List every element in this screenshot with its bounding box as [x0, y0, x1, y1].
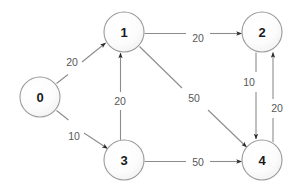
edge-label-1-to-4: 50: [188, 92, 200, 104]
edge-1-to-2: 20: [145, 32, 242, 44]
node-2[interactable]: 2: [242, 12, 282, 52]
edge-2-to-4: 10: [243, 53, 256, 140]
node-1-label: 1: [120, 25, 127, 40]
edge-1-to-4-segment-a: [140, 47, 183, 89]
edge-1-to-4: 50: [140, 47, 247, 148]
node-4[interactable]: 4: [242, 140, 282, 180]
edge-4-to-2: 20: [271, 53, 283, 143]
edge-label-3-to-1: 20: [114, 95, 126, 107]
edge-1-to-4-segment-b: [208, 110, 247, 147]
edge-label-0-to-1: 20: [66, 56, 78, 68]
edge-label-1-to-2: 20: [192, 32, 204, 44]
graph-canvas: 20 10 20 20 50 50: [0, 0, 300, 192]
node-3[interactable]: 3: [104, 140, 144, 180]
node-0[interactable]: 0: [20, 77, 60, 117]
node-4-label: 4: [258, 153, 266, 168]
node-1[interactable]: 1: [104, 12, 144, 52]
edge-0-to-3-segment-b: [84, 133, 108, 149]
edge-label-0-to-3: 10: [68, 130, 80, 142]
edge-0-to-3: 10: [57, 111, 108, 149]
edge-3-to-4: 50: [145, 156, 242, 168]
graph-diagram: 20 10 20 20 50 50: [0, 0, 300, 192]
edge-3-to-1: 20: [114, 53, 126, 140]
node-2-label: 2: [258, 25, 265, 40]
edge-label-4-to-2: 20: [271, 102, 283, 114]
node-0-label: 0: [36, 90, 43, 105]
edge-label-2-to-4: 10: [243, 76, 255, 88]
edge-0-to-3-segment-a: [57, 111, 69, 121]
node-3-label: 3: [120, 153, 127, 168]
edge-label-3-to-4: 50: [192, 156, 204, 168]
edge-0-to-1-segment-b: [82, 43, 106, 62]
edge-0-to-1: 20: [57, 43, 106, 84]
edge-0-to-1-segment-a: [57, 75, 69, 84]
